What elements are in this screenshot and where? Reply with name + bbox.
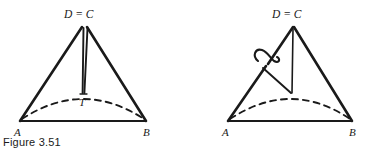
left-panel-crease-right [84,28,87,93]
left-panel-crease-left [83,28,84,93]
right-panel: D = C A B [221,8,356,138]
left-panel-label-t: T [79,96,86,108]
right-panel-apex-label: D = C [271,8,302,20]
figure-page: D = C A B T D = C A [0,0,365,157]
left-panel-label-b: B [143,126,150,138]
right-panel-fold-segment [263,68,291,93]
right-panel-dashed-back-arc [230,99,350,119]
left-panel: D = C A B T [13,8,150,138]
right-panel-label-a: A [221,126,229,138]
left-panel-edge-a-apex [20,27,82,121]
figure-caption: Figure 3.51 [3,136,61,148]
left-panel-apex-label: D = C [63,8,94,20]
left-panel-edge-apex-b [87,27,146,121]
right-panel-edge-apex-b [294,27,352,121]
figure-canvas: D = C A B T D = C A [0,0,365,157]
right-panel-axis-line [292,29,293,93]
right-panel-edge-apex-a-lower [228,66,266,121]
right-panel-label-b: B [349,126,356,138]
